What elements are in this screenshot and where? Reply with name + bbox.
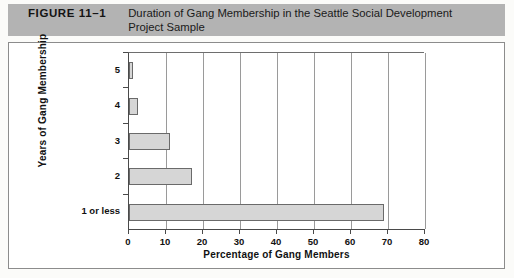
bar [129,62,133,79]
x-tick-label: 20 [187,236,217,247]
bar [129,168,192,185]
y-tick-label: 1 or less [81,205,120,216]
gridline [240,53,241,229]
x-tick [313,229,314,234]
x-tick [239,229,240,234]
x-tick [202,229,203,234]
gridline [425,53,426,229]
figure-title-line-1: Duration of Gang Membership in the Seatt… [128,7,505,21]
x-tick-label: 10 [150,236,180,247]
y-tick [123,158,128,159]
x-tick-label: 70 [372,236,402,247]
y-tick [123,123,128,124]
figure-title-line-2: Project Sample [128,21,505,35]
x-tick [276,229,277,234]
x-tick [387,229,388,234]
bar [129,98,138,115]
y-tick [123,52,128,53]
x-tick-label: 40 [261,236,291,247]
x-tick [350,229,351,234]
figure-title: Duration of Gang Membership in the Seatt… [106,7,505,34]
figure-header-band: FIGURE 11–1 Duration of Gang Membership … [8,4,505,36]
y-tick-label: 3 [115,135,120,146]
gridline [277,53,278,229]
x-tick-label: 0 [113,236,143,247]
gridline [388,53,389,229]
x-tick-label: 30 [224,236,254,247]
figure-number-label: FIGURE 11–1 [8,7,106,19]
x-axis-title: Percentage of Gang Members [128,249,425,260]
y-tick-label: 5 [115,64,120,75]
bar [129,133,170,150]
x-tick [165,229,166,234]
gridline [351,53,352,229]
bar [129,204,384,221]
gridline [203,53,204,229]
gridline [314,53,315,229]
x-tick-label: 80 [409,236,439,247]
figure-panel: Years of Gang Membership 1 or less2345 0… [8,42,505,269]
y-tick-label: 4 [115,99,120,110]
bar-chart: Years of Gang Membership 1 or less2345 0… [9,43,504,268]
y-axis-tick-labels: 1 or less2345 [9,43,120,229]
x-tick-label: 50 [298,236,328,247]
x-tick [128,229,129,234]
plot-area [128,52,424,229]
y-tick [123,87,128,88]
y-tick [123,194,128,195]
y-tick-label: 2 [115,170,120,181]
x-tick [424,229,425,234]
x-tick-label: 60 [335,236,365,247]
